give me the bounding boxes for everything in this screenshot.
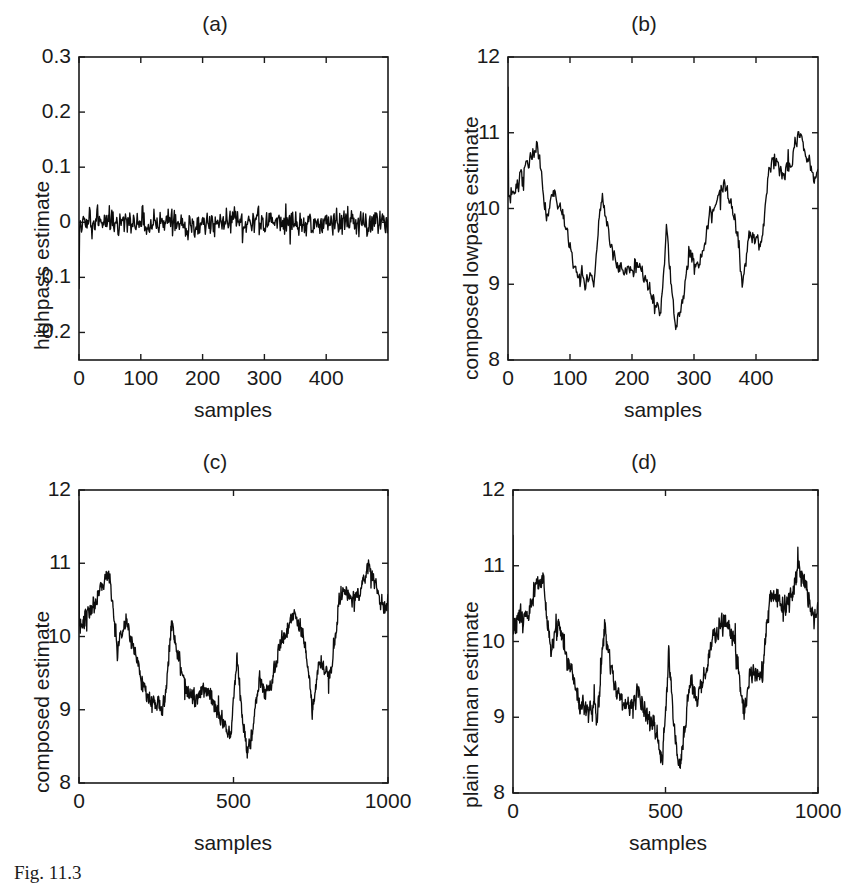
x-tick-label: 1000: [348, 789, 428, 813]
y-tick-label: 0.1: [1, 154, 71, 178]
x-tick-label: 400: [286, 366, 366, 390]
y-tick-label: 9: [430, 271, 500, 295]
y-tick-label: 10: [430, 196, 500, 220]
y-tick-label: -0.1: [1, 264, 71, 288]
figure-caption: Fig. 11.3: [14, 862, 194, 884]
y-tick-label: 0.2: [1, 99, 71, 123]
y-tick-label: 8: [435, 780, 505, 804]
data-trace: [513, 535, 818, 768]
panel-d: (d) plain Kalman estimate samples 050010…: [429, 438, 859, 877]
y-tick-label: 10: [435, 629, 505, 653]
y-tick-label: 0: [1, 209, 71, 233]
x-tick-label: 400: [716, 366, 796, 390]
data-trace: [79, 204, 388, 288]
y-tick-label: 11: [1, 550, 71, 574]
y-tick-label: 12: [430, 44, 500, 68]
y-tick-label: 12: [435, 477, 505, 501]
y-tick-label: 12: [1, 477, 71, 501]
y-tick-label: 8: [430, 347, 500, 371]
x-tick-label: 1000: [778, 799, 858, 823]
x-tick-label: 500: [626, 799, 706, 823]
y-tick-label: 10: [1, 624, 71, 648]
panel-c: (c) composed estimate samples 0500100012…: [0, 438, 430, 877]
panel-b: (b) composed lowpass estimate samples 01…: [429, 0, 859, 438]
y-tick-label: 8: [1, 770, 71, 794]
y-tick-label: 11: [430, 120, 500, 144]
y-tick-label: 0.3: [1, 44, 71, 68]
y-tick-label: 9: [1, 697, 71, 721]
y-tick-label: -0.2: [1, 319, 71, 343]
data-trace: [79, 501, 388, 758]
panel-a: (a) highpass estimate samples 0100200300…: [0, 0, 430, 438]
x-tick-label: 500: [194, 789, 274, 813]
data-trace: [508, 87, 818, 329]
y-tick-label: 9: [435, 704, 505, 728]
y-tick-label: 11: [435, 553, 505, 577]
